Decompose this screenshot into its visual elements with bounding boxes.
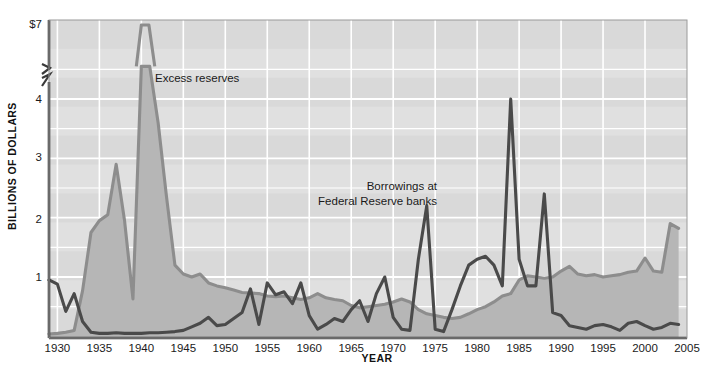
y-tick-2: 2 <box>36 213 42 225</box>
x-tick-1950: 1950 <box>212 342 238 354</box>
excess-reserves-annotation: Excess reserves <box>155 72 240 84</box>
chart-canvas: $7 4 3 2 1 BILLIONS OF DOLLARS 193019351… <box>0 0 714 373</box>
x-tick-1965: 1965 <box>338 342 364 354</box>
chart-figure: $7 4 3 2 1 BILLIONS OF DOLLARS 193019351… <box>0 0 714 373</box>
x-tick-2000: 2000 <box>632 342 658 354</box>
x-tick-1980: 1980 <box>464 342 490 354</box>
x-tick-1985: 1985 <box>506 342 532 354</box>
x-tick-1995: 1995 <box>590 342 616 354</box>
x-tick-1990: 1990 <box>548 342 574 354</box>
y-tick-7: $7 <box>29 18 42 30</box>
x-tick-1935: 1935 <box>87 342 113 354</box>
x-tick-1945: 1945 <box>171 342 197 354</box>
y-tick-4: 4 <box>36 93 43 105</box>
y-axis-title: BILLIONS OF DOLLARS <box>6 102 18 230</box>
y-tick-3: 3 <box>36 151 42 163</box>
x-axis-title: YEAR <box>362 352 393 364</box>
x-tick-1960: 1960 <box>296 342 322 354</box>
x-tick-1930: 1930 <box>45 342 71 354</box>
x-tick-2005: 2005 <box>674 342 700 354</box>
x-tick-1940: 1940 <box>129 342 155 354</box>
borrowings-annotation-line2: Federal Reserve banks <box>318 195 437 207</box>
x-tick-1975: 1975 <box>422 342 448 354</box>
borrowings-annotation-line1: Borrowings at <box>367 180 438 192</box>
y-tick-1: 1 <box>36 271 42 283</box>
x-tick-1955: 1955 <box>254 342 280 354</box>
